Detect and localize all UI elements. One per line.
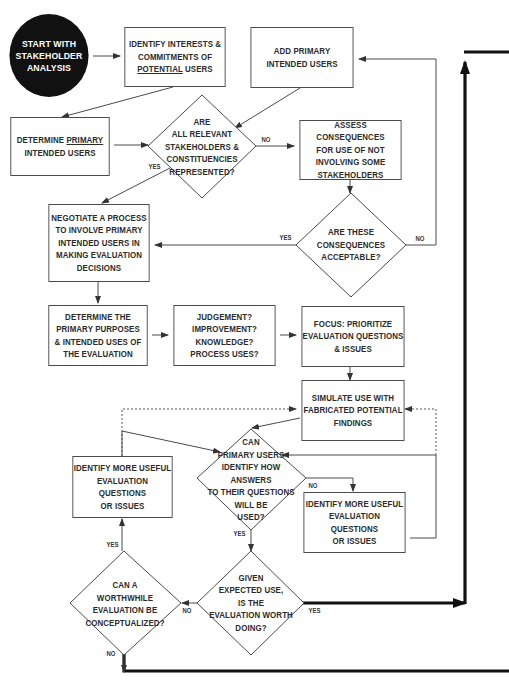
label-worth-doing-no: NO [182,607,191,614]
node-line: ARE THESE [317,226,385,239]
node-line: KNOWLEDGE? [190,336,258,349]
node-line: ARE [165,116,239,129]
acceptable-decision: ARE THESE CONSEQUENCES ACCEPTABLE? [310,220,393,270]
node-line: STAKEHOLDERS [300,169,400,182]
node-line: OR ISSUES [304,535,404,548]
node-line: INVOLVING SOME [300,156,400,169]
node-line: FABRICATED POTENTIAL [303,404,402,417]
determine-purposes-box: DETERMINE THE PRIMARY PURPOSES & INTENDE… [48,305,147,366]
node-line: CONSEQUENCES [317,239,385,252]
node-line: CONCEPTUALIZED? [85,617,164,630]
identify-more-questions-right-box: IDENTIFY MORE USEFUL EVALUATION QUESTION… [303,492,405,553]
node-line: SIMULATE USE WITH [303,392,402,405]
node-line: DOING? [209,622,293,635]
node-line: CAN [203,436,299,449]
label-worth-doing-yes: YES [309,607,321,614]
identify-interests-box: IDENTIFY INTERESTS & COMMITMENTS OF POTE… [124,27,225,87]
node-line: COMMITMENTS OF [129,51,221,64]
edge-dotted-right-to-simulate [411,409,436,455]
label-represented-no: NO [261,136,270,143]
node-line: WILL BE [203,499,299,512]
node-line: IMPROVEMENT? [190,323,258,336]
node-line: INTENDED USERS [266,58,337,71]
start-line: STAKEHOLDER [16,50,83,62]
start-line: START WITH [16,38,83,50]
node-line: ACCEPTABLE? [317,251,385,264]
start-node: START WITH STAKEHOLDER ANALYSIS [9,14,88,97]
start-line: ANALYSIS [16,62,83,74]
node-line: EVALUATION WORTH [209,609,293,622]
label-represented-yes: YES [149,163,161,170]
underlined-word: POTENTIAL [137,64,182,74]
can-primary-users-decision: CAN PRIMARY USERS IDENTIFY HOW ANSWERS T… [203,440,299,520]
node-line: POTENTIAL USERS [129,63,221,76]
node-line: PROCESS USES? [190,348,258,361]
underlined-word: PRIMARY [66,135,103,145]
assess-consequences-box: ASSESS CONSEQUENCES FOR USE OF NOT INVOL… [299,120,401,180]
node-line: PRIMARY PURPOSES [55,323,142,336]
node-line: DETERMINE THE [55,311,142,324]
edge-simulate-to-can [252,418,300,428]
node-line: INTENDED USERS IN [51,237,146,250]
node-line: IS THE [209,597,293,610]
node-line: FINDINGS [303,417,402,430]
focus-prioritize-box: FOCUS: PRIORITIZE EVALUATION QUESTIONS &… [301,306,404,367]
label-worthwhile-no: NO [106,650,115,657]
simulate-use-box: SIMULATE USE WITH FABRICATED POTENTIAL F… [301,380,404,441]
node-line: ADD PRIMARY [266,45,337,58]
node-line: IDENTIFY MORE USEFUL [73,462,171,475]
node-line: ASSESS CONSEQUENCES [300,119,400,144]
node-line: DECISIONS [51,262,146,275]
use-types-box: JUDGEMENT? IMPROVEMENT? KNOWLEDGE? PROCE… [173,305,275,366]
add-primary-users-box: ADD PRIMARY INTENDED USERS [250,27,353,88]
edge-worthwhile-no-exit [124,652,509,671]
node-line: OR ISSUES [73,500,171,513]
node-line: USED? [203,511,299,524]
node-line: FOCUS: PRIORITIZE [303,318,404,331]
determine-primary-users-box: DETERMINE PRIMARY INTENDED USERS [10,117,109,176]
all-relevant-decision: ARE ALL RELEVANT STAKEHOLDERS & CONSTITU… [154,107,250,187]
node-line: REPRESENTED? [165,166,239,179]
node-line: EVALUATION QUESTIONS [303,330,404,343]
label-can-primary-yes: YES [234,530,246,537]
identify-more-questions-left-box: IDENTIFY MORE USEFUL EVALUATION QUESTION… [72,456,172,518]
worthwhile-evaluation-decision: CAN A WORTHWHILE EVALUATION BE CONCEPTUA… [82,577,168,631]
node-line: ALL RELEVANT [165,128,239,141]
node-line: GIVEN [209,572,293,585]
node-line: IDENTIFY MORE USEFUL [304,498,404,511]
node-line: FOR USE OF NOT [300,144,400,157]
node-line: DETERMINE PRIMARY [17,134,103,147]
node-line: JUDGEMENT? [190,311,258,324]
node-line: EVALUATION BE [85,604,164,617]
label-can-primary-no: NO [308,482,317,489]
node-line: TO THEIR QUESTIONS [203,486,299,499]
node-line: & INTENDED USES OF [55,336,142,349]
label-worthwhile-yes: YES [107,541,119,548]
node-line: INTENDED USERS [17,147,103,160]
worth-doing-decision: GIVEN EXPECTED USE, IS THE EVALUATION WO… [204,570,298,636]
node-line: NEGOTIATE A PROCESS [51,212,146,225]
node-line: EXPECTED USE, [209,584,293,597]
node-line: CAN A [85,579,164,592]
node-line: & ISSUES [303,343,404,356]
node-line: PRIMARY USERS [203,449,299,462]
node-line: IDENTIFY HOW ANSWERS [203,461,299,486]
node-line: MAKING EVALUATION [51,249,146,262]
node-line: EVALUATION QUESTIONS [304,510,404,535]
node-line: IDENTIFY INTERESTS & [129,38,221,51]
node-line: STAKEHOLDERS & [165,141,239,154]
node-line: CONSTITUENCIES [165,153,239,166]
node-line: WORTHWHILE [85,592,164,605]
label-acceptable-no: NO [415,235,424,242]
node-line: EVALUATION QUESTIONS [73,475,171,500]
negotiate-process-box: NEGOTIATE A PROCESS TO INVOLVE PRIMARY I… [48,204,149,282]
node-line: THE EVALUATION [55,348,142,361]
flowchart-canvas: START WITH STAKEHOLDER ANALYSIS IDENTIFY… [0,0,509,683]
label-acceptable-yes: YES [280,234,292,241]
node-line: TO INVOLVE PRIMARY [51,224,146,237]
